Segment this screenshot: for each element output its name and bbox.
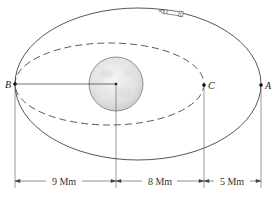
point-c-label: C (208, 80, 215, 91)
point-b-dot (13, 82, 17, 86)
point-a-label: A (264, 80, 272, 91)
point-c-dot (202, 83, 206, 87)
point-b-label: B (5, 79, 11, 90)
orbit-diagram: 9 Mm 8 Mm 5 Mm B C A (0, 0, 275, 203)
dimension-label-8mm: 8 Mm (148, 176, 172, 187)
dimension-label-5mm: 5 Mm (220, 176, 244, 187)
dimension-label-9mm: 9 Mm (52, 176, 76, 187)
point-a-dot (259, 83, 263, 87)
